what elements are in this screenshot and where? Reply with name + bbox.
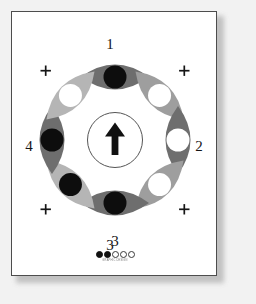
- position-label-4: 4: [20, 139, 38, 154]
- segment-dot-filled: [104, 66, 127, 89]
- brand-text: GRAPHIC DESIGN: [12, 260, 218, 263]
- progress-dot-1: [96, 251, 103, 258]
- tick-mark-lower-left: [41, 204, 51, 214]
- position-label-1: 1: [101, 37, 119, 52]
- segment-dot-filled: [41, 129, 64, 152]
- progress-dot-row: [12, 250, 218, 259]
- progress-dot-4: [120, 251, 127, 258]
- progress-dot-2: [104, 251, 111, 258]
- tick-mark-upper-left: [41, 66, 51, 76]
- progress-dot-5: [128, 251, 135, 258]
- wheel-stage: 1 2 3 4 3 GRAPHIC DESIGN: [12, 12, 218, 277]
- screenshot-root: 1 2 3 4 3 GRAPHIC DESIGN: [0, 0, 256, 304]
- footer-number: 3: [12, 234, 218, 249]
- center-arrow-group: [88, 113, 143, 168]
- segment-dot-open: [167, 129, 190, 152]
- segment-dot-filled: [104, 192, 127, 215]
- wheel-card: 1 2 3 4 3 GRAPHIC DESIGN: [11, 11, 217, 276]
- footer-block: 3 GRAPHIC DESIGN: [12, 234, 218, 263]
- position-label-2: 2: [190, 139, 208, 154]
- tick-mark-lower-right: [179, 204, 189, 214]
- tick-mark-upper-right: [179, 66, 189, 76]
- progress-dot-3: [112, 251, 119, 258]
